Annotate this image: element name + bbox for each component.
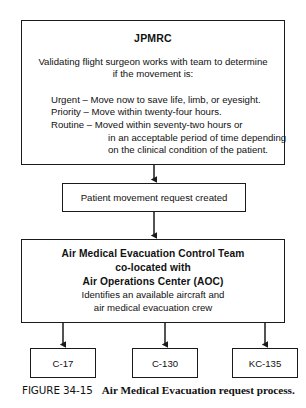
urgency-priority: Priority – Move within twenty-four hours… xyxy=(51,106,276,119)
aircraft-label-c130: C-130 xyxy=(152,358,178,369)
flowchart-diagram: JPMRC Validating flight surgeon works wi… xyxy=(0,0,306,408)
urgency-routine-cont-1: in an acceptable period of time dependin… xyxy=(51,132,276,145)
amect-line-2: co-located with xyxy=(115,261,191,275)
urgency-routine: Routine – Moved within seventy-two hours… xyxy=(51,119,276,132)
node-patient-movement-request: Patient movement request created xyxy=(62,183,246,212)
jpmrc-urgency-list: Urgent – Move now to save life, limb, or… xyxy=(30,94,276,157)
amect-line-3: Air Operations Center (AOC) xyxy=(83,275,224,289)
figure-number: FIGURE 34-15 xyxy=(22,384,93,396)
patient-movement-request-label: Patient movement request created xyxy=(81,192,228,203)
node-aircraft-kc135: KC-135 xyxy=(232,348,298,378)
figure-caption: FIGURE 34-15Air Medical Evacuation reque… xyxy=(22,380,298,398)
node-jpmrc: JPMRC Validating flight surgeon works wi… xyxy=(21,20,285,165)
jpmrc-intro: Validating flight surgeon works with tea… xyxy=(30,56,276,81)
urgency-routine-cont-2: on the clinical condition of the patient… xyxy=(51,144,276,157)
jpmrc-title: JPMRC xyxy=(134,32,172,45)
aircraft-label-c17: C-17 xyxy=(53,358,74,369)
jpmrc-intro-line-2: if the movement is: xyxy=(30,68,276,80)
node-aircraft-c130: C-130 xyxy=(132,348,198,378)
aircraft-label-kc135: KC-135 xyxy=(249,358,282,369)
jpmrc-intro-line-1: Validating flight surgeon works with tea… xyxy=(30,56,276,68)
amect-line-4: Identifies an available aircraft and xyxy=(82,289,225,302)
amect-line-1: Air Medical Evacuation Control Team xyxy=(62,247,245,261)
node-amect: Air Medical Evacuation Control Team co-l… xyxy=(21,239,285,323)
amect-line-5: air medical evacuation crew xyxy=(94,302,212,315)
node-aircraft-c17: C-17 xyxy=(30,348,96,378)
urgency-urgent: Urgent – Move now to save life, limb, or… xyxy=(51,94,276,107)
figure-title: Air Medical Evacuation request process. xyxy=(102,384,295,396)
